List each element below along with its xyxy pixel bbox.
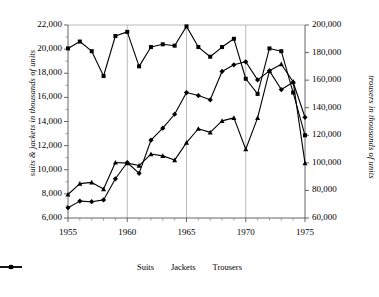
data-point-marker [244,77,248,81]
chart-legend: SuitsJacketsTrousers [0,262,379,272]
data-point-marker [102,74,106,78]
legend-item-trousers[interactable]: Trousers [213,262,242,272]
data-point-marker [208,97,213,102]
data-point-marker [137,64,141,68]
data-point-marker [291,91,295,95]
data-point-marker [77,199,82,204]
legend-point-marker [9,265,13,269]
data-point-marker [125,30,129,34]
data-point-marker [220,45,224,49]
data-point-marker [279,87,284,92]
data-point-marker [173,44,177,48]
data-point-marker [231,62,236,67]
data-point-marker [185,24,189,28]
data-point-marker [196,93,201,98]
legend-label: Jackets [171,262,196,272]
data-point-marker [231,115,236,120]
data-point-marker [196,126,201,131]
chart-container: suits & jackets in thousands of units tr… [0,0,379,297]
data-point-marker [303,133,307,137]
data-point-marker [78,40,82,44]
data-point-marker [90,49,94,53]
legend-label: Suits [137,262,154,272]
data-point-marker [256,92,260,96]
data-point-marker [149,45,153,49]
data-point-marker [255,115,260,120]
data-point-marker [66,46,70,50]
data-point-marker [161,42,165,46]
legend-label: Trousers [213,262,242,272]
data-point-marker [113,34,117,38]
data-point-marker [184,90,189,95]
data-point-marker [232,37,236,41]
data-point-marker [219,69,224,74]
data-point-marker [208,55,212,59]
data-point-marker [267,46,271,50]
data-point-marker [196,45,200,49]
data-point-marker [279,49,283,53]
legend-item-suits[interactable]: Suits [137,262,154,272]
data-point-marker [101,186,106,191]
data-point-marker [243,147,248,152]
legend-marker-square-icon [0,262,22,272]
data-point-marker [89,199,94,204]
data-point-marker [302,115,307,120]
data-point-marker [279,62,284,67]
legend-item-jackets[interactable]: Jackets [171,262,196,272]
data-point-marker [101,197,106,202]
plot-area [0,0,379,297]
